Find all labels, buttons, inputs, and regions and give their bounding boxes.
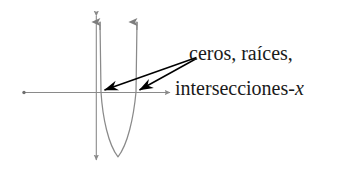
annotation-label-variable-x: x <box>295 77 304 99</box>
annotation-label-line-2: intersecciones-x <box>175 78 304 98</box>
figure-root: ceros, raíces, intersecciones-x <box>0 0 341 180</box>
annotation-label-line-1: ceros, raíces, <box>189 43 293 63</box>
annotation-label-line-2-prefix: intersecciones- <box>175 77 295 99</box>
